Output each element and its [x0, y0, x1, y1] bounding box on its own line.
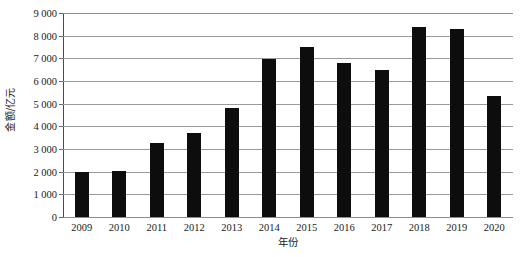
y-axis-spine [63, 13, 64, 218]
y-tick-label: 6 000 [33, 76, 57, 87]
x-axis-title: 年份 [63, 234, 513, 249]
y-tick-mark [59, 172, 63, 173]
y-tick-mark [59, 104, 63, 105]
gridline [63, 149, 513, 150]
x-tick-label: 2016 [334, 222, 355, 233]
bar [225, 108, 239, 217]
bar [187, 133, 201, 217]
bar [375, 70, 389, 217]
x-tick-label: 2012 [184, 222, 205, 233]
gridline [63, 172, 513, 173]
y-tick-mark [59, 194, 63, 195]
y-tick-label: 0 [52, 212, 57, 223]
y-tick-mark [59, 149, 63, 150]
gridline [63, 126, 513, 127]
x-tick-label: 2015 [296, 222, 317, 233]
y-tick-label: 7 000 [33, 53, 57, 64]
y-tick-label: 8 000 [33, 30, 57, 41]
x-axis-spine [63, 217, 513, 218]
y-tick-label: 9 000 [33, 8, 57, 19]
bar [487, 96, 501, 217]
gridline [63, 81, 513, 82]
y-tick-label: 3 000 [33, 144, 57, 155]
x-tick-label: 2010 [109, 222, 130, 233]
gridline [63, 194, 513, 195]
x-tick-label: 2011 [146, 222, 167, 233]
x-tick-label: 2018 [409, 222, 430, 233]
x-tick-label: 2013 [221, 222, 242, 233]
y-axis-title: 金额/亿元 [0, 0, 18, 218]
y-tick-mark [59, 36, 63, 37]
y-tick-label: 2 000 [33, 166, 57, 177]
bar [75, 172, 89, 217]
y-tick-label: 1 000 [33, 189, 57, 200]
gridline [63, 36, 513, 37]
x-tick-label: 2017 [371, 222, 392, 233]
x-tick-label: 2014 [259, 222, 280, 233]
y-tick-label: 5 000 [33, 98, 57, 109]
bar [450, 29, 464, 217]
y-tick-mark [59, 126, 63, 127]
y-tick-mark [59, 81, 63, 82]
x-tick-label: 2019 [446, 222, 467, 233]
bar [300, 47, 314, 217]
bar [262, 59, 276, 217]
y-tick-mark [59, 58, 63, 59]
bar [112, 171, 126, 217]
bar [412, 27, 426, 217]
plot-area: 01 0002 0003 0004 0005 0006 0007 0008 00… [63, 13, 513, 218]
y-tick-label: 4 000 [33, 121, 57, 132]
gridline [63, 13, 513, 14]
gridline [63, 104, 513, 105]
x-tick-label: 2009 [71, 222, 92, 233]
y-tick-mark [59, 13, 63, 14]
y-tick-mark [59, 217, 63, 218]
bar-chart-figure: 金额/亿元 01 0002 0003 0004 0005 0006 0007 0… [0, 0, 524, 257]
y-axis-title-label: 金额/亿元 [2, 87, 17, 131]
bar [150, 143, 164, 217]
x-tick-label: 2020 [484, 222, 505, 233]
x-axis-title-label: 年份 [278, 236, 298, 248]
gridline [63, 58, 513, 59]
bar [337, 63, 351, 217]
